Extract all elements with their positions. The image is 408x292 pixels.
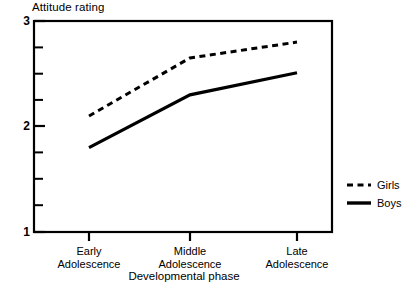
plot-frame [34, 21, 332, 232]
series-line-boys [89, 73, 297, 148]
chart-figure: Attitude rating 3 2 1 [0, 0, 408, 292]
x-tick-label-late: Late Adolescence [237, 245, 357, 270]
x-tick-label-middle-line1: Middle [130, 245, 250, 258]
x-tick-label-late-line1: Late [237, 245, 357, 258]
legend-label-boys: Boys [377, 197, 401, 209]
y-major-ticks [34, 21, 45, 232]
x-tick-label-middle: Middle Adolescence [130, 245, 250, 270]
x-ticks [89, 232, 297, 241]
x-tick-label-middle-line2: Adolescence [130, 258, 250, 271]
legend-label-girls: Girls [377, 179, 400, 191]
x-tick-label-late-line2: Adolescence [237, 258, 357, 271]
x-axis-title: Developmental phase [0, 270, 368, 282]
